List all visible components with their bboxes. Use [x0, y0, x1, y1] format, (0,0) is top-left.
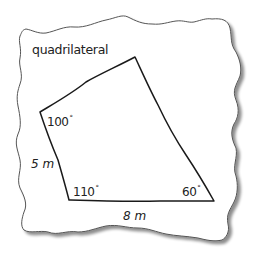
angle-label-bottom-right: 60°: [182, 186, 200, 198]
degree-symbol: °: [197, 184, 200, 192]
angle-value-bottom-left: 110: [73, 185, 94, 199]
degree-symbol: °: [69, 114, 72, 122]
degree-symbol: °: [95, 184, 98, 192]
angle-value-left: 100: [47, 115, 68, 129]
side-label-left: 5 m: [31, 158, 54, 170]
diagram-title: quadrilateral: [32, 44, 108, 57]
side-label-bottom: 8 m: [123, 210, 146, 222]
diagram-canvas: quadrilateral 100° 5 m 110° 60° 8 m: [0, 0, 254, 261]
angle-label-left: 100°: [47, 116, 72, 128]
angle-label-bottom-left: 110°: [73, 186, 98, 198]
angle-value-bottom-right: 60: [182, 185, 196, 199]
